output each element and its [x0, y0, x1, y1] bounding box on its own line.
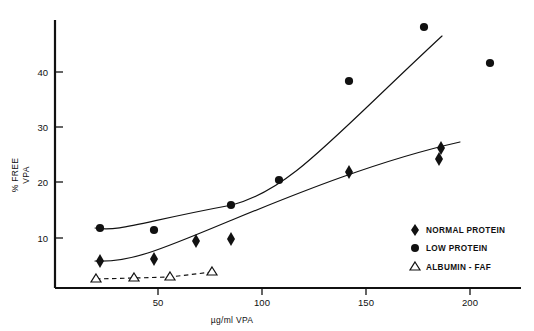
filled-circle-icon: [411, 244, 419, 252]
data-point: [227, 201, 235, 209]
y-tick-label-20: 20: [37, 177, 48, 188]
data-point: [345, 165, 353, 179]
normal-protein-trend-line: [95, 142, 460, 261]
chart-legend: NORMAL PROTEIN LOW PROTEIN ALBUMIN - FAF: [410, 224, 505, 272]
legend-label: LOW PROTEIN: [426, 244, 488, 253]
data-point: [435, 152, 443, 166]
data-point: [96, 254, 104, 268]
scatter-plot: 40 30 20 10 50 100 150 200 % FREE VPA µg…: [0, 0, 534, 331]
legend-item-low-protein[interactable]: LOW PROTEIN: [411, 244, 488, 253]
legend-label: NORMAL PROTEIN: [426, 226, 505, 235]
low-protein-trend-line: [95, 36, 442, 229]
y-axis-title-line1: % FREE: [10, 158, 20, 192]
low-protein-markers: [96, 23, 494, 234]
x-tick-label-100: 100: [254, 297, 270, 308]
data-point: [91, 274, 101, 282]
data-point: [165, 272, 175, 280]
y-axis-ticks: 40 30 20 10: [37, 67, 63, 244]
data-point: [486, 59, 494, 67]
legend-item-albumin-faf[interactable]: ALBUMIN - FAF: [410, 262, 491, 272]
x-tick-label-200: 200: [462, 297, 478, 308]
x-axis-ticks: 50 100 150 200: [153, 288, 478, 308]
x-axis-title: µg/ml VPA: [211, 315, 253, 325]
data-point: [150, 252, 158, 266]
data-point: [129, 273, 139, 281]
y-axis-title-line2: VPA: [21, 166, 31, 183]
filled-diamond-icon: [411, 224, 419, 236]
albumin-faf-trend-line: [96, 272, 212, 279]
data-point: [345, 77, 353, 85]
data-point: [437, 141, 445, 155]
data-point: [227, 232, 235, 246]
albumin-faf-markers: [91, 267, 217, 282]
open-triangle-icon: [410, 262, 420, 270]
legend-label: ALBUMIN - FAF: [426, 263, 491, 272]
data-point: [420, 23, 428, 31]
legend-item-normal-protein[interactable]: NORMAL PROTEIN: [411, 224, 505, 236]
data-point: [207, 267, 217, 275]
y-tick-label-40: 40: [37, 67, 48, 78]
x-tick-label-50: 50: [153, 297, 164, 308]
data-point: [96, 224, 104, 232]
data-point: [150, 226, 158, 234]
y-tick-label-30: 30: [37, 122, 48, 133]
data-point: [275, 176, 283, 184]
y-tick-label-10: 10: [37, 233, 48, 244]
x-tick-label-150: 150: [358, 297, 374, 308]
chart-container: 40 30 20 10 50 100 150 200 % FREE VPA µg…: [0, 0, 534, 331]
